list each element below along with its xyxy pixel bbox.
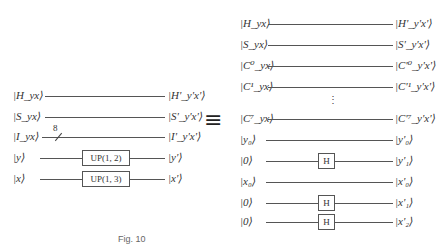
right-input-y0: |y₀⟩ [240,133,256,145]
hadamard-gate-x1: H [318,195,335,211]
left-wire-H [45,96,165,97]
right-output-C1: |C'¹_y'x'⟩ [395,80,435,92]
left-output-x: |x'⟩ [168,172,183,184]
left-input-H: |H_yx⟩ [13,89,44,101]
right-output-x0: |x'₀⟩ [395,175,413,187]
right-input-H: |H_yx⟩ [240,17,271,29]
left-input-S: |S_yx⟩ [13,110,41,122]
ellipsis-icon: ⋮ [328,98,338,102]
figure-caption: Fig. 10 [118,234,146,244]
right-wire-C0 [268,66,393,67]
bus-width-label: 8 [53,123,58,133]
right-output-S: |S'_y'x'⟩ [395,38,430,50]
left-wire-I [42,137,165,138]
left-output-I: |I'_y'x'⟩ [168,130,201,142]
left-wire-S [45,117,165,118]
right-input-S: |S_yx⟩ [240,38,268,50]
right-input-C0: |C⁰_yx⟩ [240,59,274,71]
left-output-S: |S'_y'x'⟩ [168,110,203,122]
left-output-H: |H'_y'x'⟩ [168,89,206,101]
left-input-I: |I_yx⟩ [13,130,39,142]
right-input-C7: |C⁷_yx⟩ [240,112,274,124]
right-output-y0: |y'₀⟩ [395,133,413,145]
right-output-H: |H'_y'x'⟩ [395,17,433,29]
right-output-C7: |C'⁷_y'x'⟩ [395,112,436,124]
right-wire-C7 [268,119,393,120]
right-wire-C1 [268,87,393,88]
right-input-zero-x2: |0⟩ [240,215,253,227]
left-input-y: |y⟩ [13,151,25,163]
left-output-y: |y'⟩ [168,151,183,163]
gate-up-1-2: UP(1, 2) [82,150,130,166]
hadamard-gate-x2: H [318,214,335,230]
right-input-x0: |x₀⟩ [240,175,256,187]
right-input-zero-x1: |0⟩ [240,196,253,208]
hadamard-gate-y1: H [318,153,335,169]
gate-up-1-3: UP(1, 3) [82,171,130,187]
right-wire-S [268,45,393,46]
right-output-y1: |y'₁⟩ [395,154,413,166]
right-input-zero-y1: |0⟩ [240,154,253,166]
right-wire-y0 [266,140,393,141]
right-output-x2: |x'₂⟩ [395,215,413,227]
right-wire-H [268,24,393,25]
right-output-C0: |C'⁰_y'x'⟩ [395,59,436,71]
right-output-x1: |x'₁⟩ [395,196,413,208]
right-wire-x0 [266,182,393,183]
left-input-x: |x⟩ [13,172,25,184]
equivalence-symbol: ≡ [204,107,222,132]
right-input-C1: |C¹_yx⟩ [240,80,273,92]
